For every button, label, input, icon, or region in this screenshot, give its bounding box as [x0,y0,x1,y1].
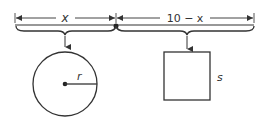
left-brace [16,26,116,35]
side-label: s [217,71,223,84]
radius-label: r [77,70,83,83]
square-shape [164,52,210,100]
right-brace [116,26,254,35]
left-segment-label: x [60,11,69,25]
wire-cut-diagram: x 10 − x r s [0,0,267,120]
right-segment-label: 10 − x [167,12,204,25]
